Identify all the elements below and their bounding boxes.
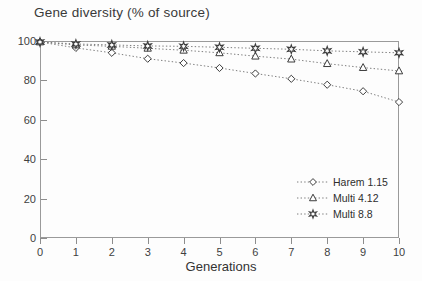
legend-star-icon (296, 207, 330, 221)
x-axis-tick-label: 1 (73, 246, 79, 258)
x-axis-tick-mark (255, 238, 256, 244)
y-axis-tick-label: 20 (24, 193, 36, 205)
x-axis-tick-label: 8 (324, 246, 330, 258)
y-axis-tick-label: 100 (18, 35, 36, 47)
y-axis-tick-mark (41, 159, 47, 160)
legend-item: Harem 1.15 (296, 174, 396, 190)
x-axis-tick-label: 3 (145, 246, 151, 258)
x-axis-tick-mark (76, 238, 77, 244)
x-axis-tick-label: 7 (288, 246, 294, 258)
x-axis-tick-label: 4 (181, 246, 187, 258)
x-axis-tick-mark (40, 238, 41, 244)
x-axis-tick-mark (363, 238, 364, 244)
x-axis-tick-mark (148, 238, 149, 244)
legend-item: Multi 4.12 (296, 190, 396, 206)
y-axis-tick-mark (41, 120, 47, 121)
x-axis-tick-label: 2 (109, 246, 115, 258)
x-axis-tick-mark (112, 238, 113, 244)
data-point-triangle-marker (310, 194, 317, 201)
chart-figure: Gene diversity (% of source) 02040608010… (0, 0, 422, 281)
x-axis-tick-label: 5 (216, 246, 222, 258)
y-axis-tick-mark (41, 80, 47, 81)
x-axis-tick-label: 0 (37, 246, 43, 258)
y-axis-tick-mark (41, 238, 47, 239)
x-axis-tick-mark (291, 238, 292, 244)
y-axis-tick-label: 60 (24, 114, 36, 126)
x-axis-tick-mark (327, 238, 328, 244)
y-axis-tick-label: 0 (30, 232, 36, 244)
y-axis-tick-labels: 020406080100 (0, 0, 36, 281)
data-point-diamond-marker (310, 179, 317, 186)
legend-triangle-icon (296, 191, 330, 205)
y-axis-tick-mark (41, 41, 47, 42)
chart-legend: Harem 1.15Multi 4.12Multi 8.8 (296, 174, 396, 222)
x-axis-tick-mark (399, 238, 400, 244)
x-axis-tick-label: 6 (252, 246, 258, 258)
chart-title: Gene diversity (% of source) (34, 5, 210, 20)
legend-item-label: Multi 8.8 (330, 208, 373, 220)
x-axis-tick-label: 10 (393, 246, 405, 258)
x-axis-tick-label: 9 (360, 246, 366, 258)
legend-diamond-icon (296, 175, 330, 189)
legend-item-label: Harem 1.15 (330, 176, 388, 188)
x-axis-tick-mark (220, 238, 221, 244)
y-axis-tick-label: 40 (24, 153, 36, 165)
legend-item: Multi 8.8 (296, 206, 396, 222)
y-axis-tick-mark (41, 199, 47, 200)
x-axis-tick-mark (184, 238, 185, 244)
legend-item-label: Multi 4.12 (330, 192, 379, 204)
y-axis-tick-label: 80 (24, 74, 36, 86)
x-axis-title: Generations (0, 259, 422, 274)
